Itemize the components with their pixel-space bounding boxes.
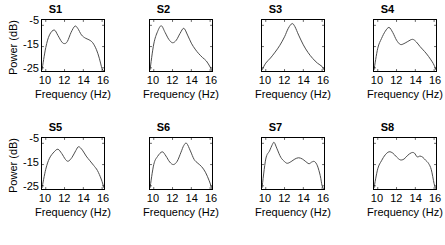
x-tick-label: 12	[58, 192, 70, 204]
x-tick-label: 14	[78, 192, 90, 204]
subplot-title: S2	[108, 3, 219, 15]
x-tick-label: 12	[390, 192, 402, 204]
x-tick-label: 10	[39, 74, 51, 86]
x-axis-title: Frequency (Hz)	[351, 88, 445, 100]
x-tick-label: 16	[205, 192, 217, 204]
subplot-s8: S810121416Frequency (Hz)	[332, 118, 443, 240]
x-tick-label: 10	[39, 192, 51, 204]
spectrum-curve	[150, 143, 212, 189]
x-axis-title: Frequency (Hz)	[351, 206, 445, 218]
x-tick-label: 14	[298, 74, 310, 86]
subplot-s2: S210121416Frequency (Hz)	[108, 0, 219, 122]
x-tick-label: 10	[371, 192, 383, 204]
spectrum-curve	[150, 26, 212, 71]
x-tick-label: 12	[58, 74, 70, 86]
x-axis: 10121416	[41, 74, 105, 87]
subplot-s4: S410121416Frequency (Hz)	[332, 0, 443, 122]
y-axis-title: Power (dB)	[8, 9, 19, 87]
x-tick-label: 16	[317, 192, 329, 204]
figure-panel: S1-5-15-25Power (dB)10121416Frequency (H…	[0, 0, 445, 245]
spectrum-curve	[374, 152, 436, 189]
plot-area	[373, 19, 437, 72]
x-tick-label: 10	[259, 74, 271, 86]
x-tick-label: 14	[186, 192, 198, 204]
x-tick-label: 16	[317, 74, 329, 86]
spectrum-curve	[42, 147, 104, 188]
plot-area	[373, 137, 437, 190]
x-tick-label: 16	[205, 74, 217, 86]
x-tick-label: 12	[166, 74, 178, 86]
subplot-row-bottom: S5-5-15-25Power (dB)10121416Frequency (H…	[0, 118, 445, 240]
subplot-s3: S310121416Frequency (Hz)	[220, 0, 331, 122]
plot-area	[149, 19, 213, 72]
plot-area	[261, 137, 325, 190]
subplot-s5: S5-5-15-25Power (dB)10121416Frequency (H…	[0, 118, 111, 240]
subplot-title: S4	[332, 3, 443, 15]
x-tick-label: 12	[390, 74, 402, 86]
y-axis-title: Power (dB)	[8, 127, 19, 205]
x-axis: 10121416	[261, 192, 325, 205]
x-axis: 10121416	[373, 74, 437, 87]
x-tick-label: 16	[429, 192, 441, 204]
x-axis-title: Frequency (Hz)	[239, 88, 347, 100]
spectrum-curve	[374, 27, 436, 70]
x-tick-label: 14	[186, 74, 198, 86]
x-axis-title: Frequency (Hz)	[127, 88, 235, 100]
x-tick-label: 14	[410, 74, 422, 86]
x-axis: 10121416	[149, 192, 213, 205]
x-tick-label: 10	[259, 192, 271, 204]
x-tick-label: 10	[371, 74, 383, 86]
x-tick-label: 16	[429, 74, 441, 86]
x-axis-title: Frequency (Hz)	[127, 206, 235, 218]
x-tick-label: 12	[166, 192, 178, 204]
subplot-title: S3	[220, 3, 331, 15]
subplot-row-top: S1-5-15-25Power (dB)10121416Frequency (H…	[0, 0, 445, 122]
y-axis: -5-15-25Power (dB)	[0, 0, 41, 122]
spectrum-curve	[262, 142, 324, 189]
x-axis: 10121416	[149, 74, 213, 87]
x-tick-label: 10	[147, 74, 159, 86]
x-axis: 10121416	[41, 192, 105, 205]
x-tick-label: 12	[278, 192, 290, 204]
subplot-s1: S1-5-15-25Power (dB)10121416Frequency (H…	[0, 0, 111, 122]
x-axis: 10121416	[261, 74, 325, 87]
subplot-title: S6	[108, 121, 219, 133]
x-tick-label: 14	[78, 74, 90, 86]
x-tick-label: 12	[278, 74, 290, 86]
plot-area	[149, 137, 213, 190]
y-axis: -5-15-25Power (dB)	[0, 118, 41, 240]
plot-area	[41, 137, 105, 190]
x-tick-label: 10	[147, 192, 159, 204]
subplot-title: S8	[332, 121, 443, 133]
plot-area	[261, 19, 325, 72]
x-axis-title: Frequency (Hz)	[239, 206, 347, 218]
x-tick-label: 14	[298, 192, 310, 204]
subplot-s6: S610121416Frequency (Hz)	[108, 118, 219, 240]
x-tick-label: 14	[410, 192, 422, 204]
spectrum-curve	[262, 24, 324, 70]
subplot-title: S7	[220, 121, 331, 133]
plot-area	[41, 19, 105, 72]
spectrum-curve	[42, 26, 104, 71]
x-axis: 10121416	[373, 192, 437, 205]
subplot-s7: S710121416Frequency (Hz)	[220, 118, 331, 240]
